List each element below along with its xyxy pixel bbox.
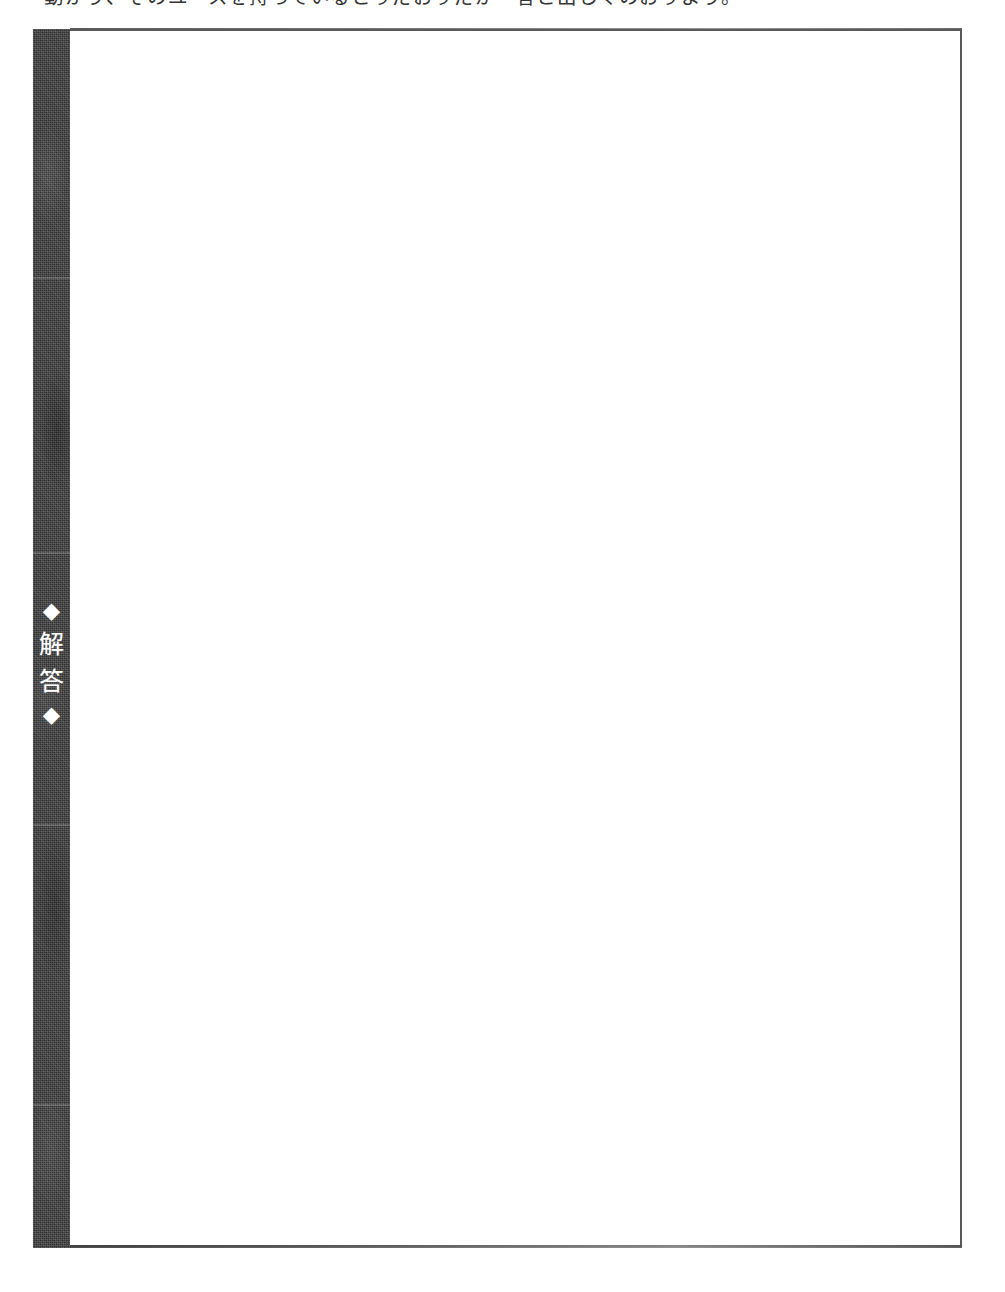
frame-bottom-edge — [70, 1245, 962, 1248]
scanned-page: 動かう、そのユースを持っているとりだおりだが一答と出しくのおりよう。 ◆ 解 答… — [0, 0, 1005, 1292]
tab-seam — [33, 1104, 70, 1106]
cropped-body-text-line: 動かう、そのユースを持っているとりだおりだが一答と出しくのおりよう。 — [44, 0, 949, 9]
answer-frame — [68, 29, 962, 1247]
answer-tab-char-kai: 解 — [39, 631, 64, 658]
answer-tab-label: ◆ 解 答 ◆ — [33, 601, 70, 725]
answer-section-tab: ◆ 解 答 ◆ — [33, 29, 70, 1248]
tab-seam — [33, 824, 70, 826]
diamond-icon-top: ◆ — [43, 601, 60, 621]
tab-seam — [33, 552, 70, 554]
answer-tab-char-tou: 答 — [39, 668, 64, 695]
tab-seam — [33, 277, 70, 279]
diamond-icon-bottom: ◆ — [43, 705, 60, 725]
answer-writing-area[interactable] — [70, 31, 960, 1245]
